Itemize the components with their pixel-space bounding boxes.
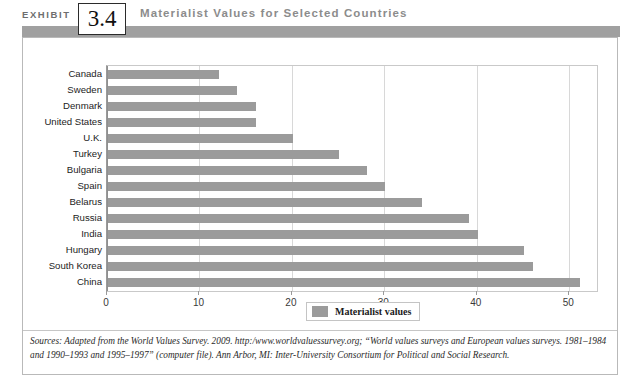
category-label: Denmark — [63, 100, 102, 111]
gridline — [199, 66, 200, 291]
category-label: Belarus — [69, 196, 102, 207]
exhibit-number: 3.4 — [88, 6, 117, 31]
gridline — [477, 66, 478, 291]
category-label: Canada — [68, 68, 102, 79]
tick-label: 20 — [276, 297, 306, 308]
bar — [108, 150, 339, 159]
bar — [108, 198, 422, 207]
tick-label: 10 — [183, 297, 213, 308]
category-label: United States — [44, 116, 102, 127]
category-label: U.K. — [83, 132, 102, 143]
bar — [108, 102, 256, 111]
category-label: Sweden — [67, 84, 102, 95]
chart-legend: Materialist values — [306, 302, 420, 321]
bar — [108, 166, 367, 175]
bar — [108, 118, 256, 127]
tick-mark — [476, 291, 477, 295]
bar — [108, 182, 385, 191]
tick-label: 50 — [553, 297, 583, 308]
legend-label: Materialist values — [335, 306, 411, 317]
gridline — [292, 66, 293, 291]
category-label: South Korea — [49, 260, 102, 271]
tick-mark — [291, 291, 292, 295]
category-label: Hungary — [66, 244, 102, 255]
category-label: Bulgaria — [67, 164, 102, 175]
bar — [108, 86, 237, 95]
bar — [108, 70, 219, 79]
bar — [108, 246, 524, 255]
gridline — [384, 66, 385, 291]
category-label: Spain — [77, 180, 102, 191]
tick-label: 40 — [461, 297, 491, 308]
exhibit-title: Materialist Values for Selected Countrie… — [140, 7, 408, 19]
tick-label: 0 — [91, 297, 121, 308]
source-divider — [23, 330, 617, 331]
bar-chart: CanadaSwedenDenmarkUnited StatesU.K.Turk… — [23, 38, 619, 328]
gridline — [569, 66, 570, 291]
exhibit-frame: CanadaSwedenDenmarkUnited StatesU.K.Turk… — [22, 37, 618, 375]
exhibit-header: EXHIBIT 3.4 Materialist Values for Selec… — [0, 0, 635, 42]
category-label: China — [77, 276, 102, 287]
legend-swatch-icon — [312, 306, 328, 317]
category-label: Russia — [73, 212, 102, 223]
category-label: Turkey — [73, 148, 102, 159]
bar — [108, 230, 478, 239]
tick-mark — [106, 291, 107, 295]
tick-mark — [198, 291, 199, 295]
category-label: India — [81, 228, 102, 239]
exhibit-number-box: 3.4 — [78, 3, 126, 35]
bar — [108, 134, 293, 143]
bar — [108, 214, 469, 223]
tick-mark — [383, 291, 384, 295]
tick-mark — [568, 291, 569, 295]
value-axis-line — [107, 66, 108, 291]
source-note: Sources: Adapted from the World Values S… — [30, 335, 612, 362]
exhibit-label: EXHIBIT — [22, 9, 71, 20]
plot-area — [106, 65, 598, 292]
bar — [108, 262, 533, 271]
bar — [108, 278, 580, 287]
